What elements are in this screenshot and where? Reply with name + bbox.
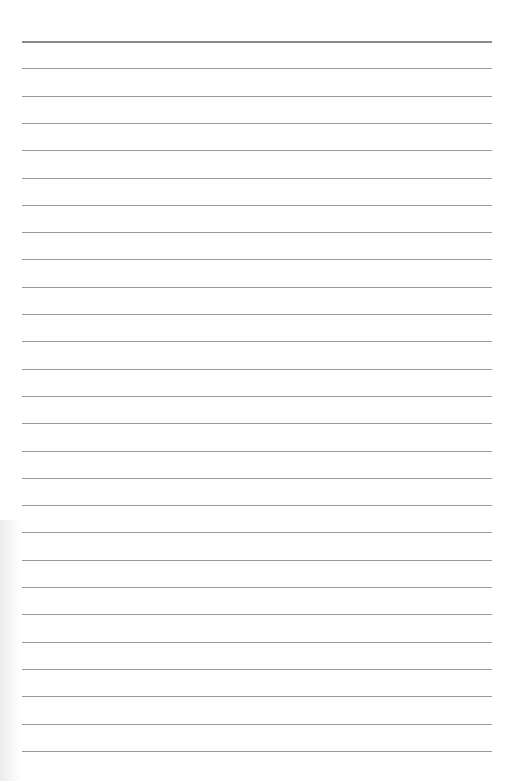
rule-line — [22, 341, 492, 342]
rule-line — [22, 696, 492, 697]
edge-shadow — [0, 520, 22, 781]
rule-line — [22, 150, 492, 151]
rule-line — [22, 642, 492, 643]
rule-line — [22, 369, 492, 370]
rule-line — [22, 232, 492, 233]
rule-line — [22, 532, 492, 533]
rule-line — [22, 68, 492, 69]
rule-line — [22, 724, 492, 725]
rule-line — [22, 396, 492, 397]
rule-line — [22, 614, 492, 615]
rule-line — [22, 178, 492, 179]
rule-line — [22, 314, 492, 315]
rule-line — [22, 669, 492, 670]
rule-line — [22, 423, 492, 424]
rule-line — [22, 96, 492, 97]
rule-line — [22, 505, 492, 506]
rule-line — [22, 751, 492, 752]
rule-line — [22, 587, 492, 588]
rule-line — [22, 259, 492, 260]
rule-line — [22, 287, 492, 288]
rule-line — [22, 205, 492, 206]
rule-line — [22, 123, 492, 124]
rule-line — [22, 451, 492, 452]
rule-line — [22, 478, 492, 479]
lined-paper-page — [0, 0, 505, 781]
rule-line — [22, 560, 492, 561]
header-rule-line — [22, 41, 492, 43]
